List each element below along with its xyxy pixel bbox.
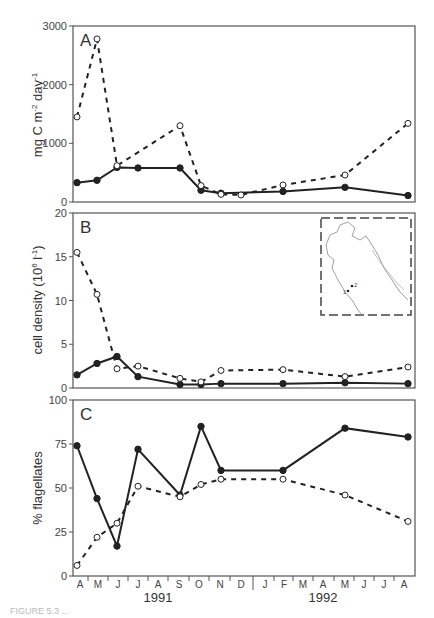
open-marker: [74, 114, 80, 120]
y-tick-label: 50: [55, 482, 67, 494]
panel-c: 0255075100C: [49, 394, 415, 582]
filled-marker: [177, 165, 183, 171]
filled-marker: [114, 543, 120, 549]
open-marker: [177, 375, 183, 381]
open-marker: [342, 492, 348, 498]
y-tick-label: 0: [61, 570, 67, 582]
open-marker: [177, 123, 183, 129]
month-label: M: [94, 579, 102, 590]
filled-marker: [405, 434, 411, 440]
filled-marker: [405, 192, 411, 198]
filled-marker: [280, 467, 286, 473]
figure: 0100020003000A05101520B0255075100Cmg C m…: [0, 0, 434, 618]
month-label: M: [299, 579, 307, 590]
open-marker: [342, 172, 348, 178]
filled-marker: [405, 380, 411, 386]
open-marker: [114, 520, 120, 526]
month-label: A: [77, 579, 84, 590]
station-1-marker: [347, 290, 350, 293]
panel-a: 0100020003000A: [43, 20, 415, 208]
filled-marker: [218, 380, 224, 386]
panel-letter: A: [80, 31, 92, 50]
filled-marker: [280, 380, 286, 386]
filled-marker: [280, 188, 286, 194]
y-tick-label: 20: [55, 207, 67, 219]
month-label: J: [382, 579, 387, 590]
y-tick-label: 0: [61, 382, 67, 394]
open-marker: [218, 191, 224, 197]
open-marker: [94, 534, 100, 540]
open-marker: [280, 367, 286, 373]
filled-marker: [135, 373, 141, 379]
month-label: J: [263, 579, 268, 590]
y-tick-label: 2000: [43, 79, 67, 91]
open-marker: [198, 183, 204, 189]
open-marker: [280, 182, 286, 188]
filled-marker: [342, 184, 348, 190]
solid-series-line: [77, 167, 408, 195]
open-marker: [135, 363, 141, 369]
filled-marker: [74, 372, 80, 378]
open-marker: [94, 36, 100, 42]
month-label: A: [320, 579, 327, 590]
open-marker: [198, 379, 204, 385]
open-marker: [177, 494, 183, 500]
year-label-1992: 1992: [309, 590, 338, 605]
month-label: M: [341, 579, 349, 590]
month-label: S: [176, 579, 183, 590]
y-axis-label: mg C m-2 day-1: [30, 72, 45, 157]
open-marker: [74, 249, 80, 255]
y-axis-label: cell density (106 l-1): [30, 245, 45, 354]
open-marker: [114, 163, 120, 169]
filled-marker: [198, 423, 204, 429]
x-axis: AMJJASONDJFMAMJJA19911992: [77, 576, 408, 605]
filled-marker: [94, 495, 100, 501]
filled-marker: [74, 179, 80, 185]
filled-marker: [74, 443, 80, 449]
filled-marker: [218, 467, 224, 473]
y-axis-label: % flagellates: [30, 451, 45, 525]
y-tick-label: 3000: [43, 20, 67, 32]
month-label: A: [401, 579, 408, 590]
dashed-series-line: [77, 39, 408, 195]
y-tick-label: 1000: [43, 137, 67, 149]
open-marker: [218, 368, 224, 374]
panel-letter: C: [80, 405, 92, 424]
filled-marker: [342, 380, 348, 386]
open-marker: [74, 562, 80, 568]
open-marker: [198, 481, 204, 487]
open-marker: [405, 518, 411, 524]
month-label: O: [195, 579, 203, 590]
y-tick-label: 25: [55, 526, 67, 538]
month-label: J: [362, 579, 367, 590]
open-marker: [280, 476, 286, 482]
filled-marker: [177, 381, 183, 387]
y-tick-label: 75: [55, 438, 67, 450]
open-marker: [94, 291, 100, 297]
open-marker: [218, 476, 224, 482]
y-tick-label: 15: [55, 251, 67, 263]
y-tick-label: 10: [55, 295, 67, 307]
open-marker: [405, 364, 411, 370]
solid-series-line: [77, 426, 408, 546]
station-2-marker: [351, 285, 354, 288]
dashed-series-line: [77, 479, 408, 565]
month-label: J: [136, 579, 141, 590]
filled-marker: [342, 425, 348, 431]
month-label: J: [116, 579, 121, 590]
open-marker: [114, 366, 120, 372]
open-marker: [135, 483, 141, 489]
panel-letter: B: [80, 218, 91, 237]
month-label: A: [155, 579, 162, 590]
month-label: F: [281, 579, 287, 590]
filled-marker: [135, 165, 141, 171]
month-label: D: [237, 579, 244, 590]
open-marker: [342, 374, 348, 380]
inset-map: 21: [321, 218, 411, 315]
open-marker: [405, 120, 411, 126]
year-label-1991: 1991: [144, 590, 173, 605]
filled-marker: [135, 446, 141, 452]
y-tick-label: 5: [61, 338, 67, 350]
figure-caption: FIGURE 5.3 ...: [10, 606, 430, 616]
filled-marker: [94, 177, 100, 183]
